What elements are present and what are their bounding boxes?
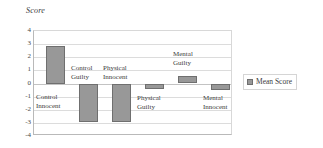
legend-label-mean-score: Mean Score [256,78,292,86]
bar-label-line: Innocent [36,102,61,111]
bar-label-mental-guilty: Mental Guilty [173,50,193,67]
gridline [34,123,231,124]
bar-label-line: Mental [173,50,193,59]
bar-label-line: Guilty [173,59,193,68]
chart-title: Score [26,6,45,15]
plot-area: Control Innocent Control Guilty Physical… [33,30,232,135]
bar-label-line: Innocent [103,73,128,82]
y-tick-label: 3 [9,40,31,47]
bar-label-line: Mental [203,94,228,103]
chart-legend: Mean Score [243,74,297,90]
legend-swatch-icon [247,79,253,85]
bar-label-line: Physical [137,94,161,103]
y-axis-tick-labels: 4 3 2 1 0 -1 -2 -3 -4 [5,30,31,135]
bar-control-innocent[interactable] [46,46,65,84]
bar-label-mental-innocent: Mental Innocent [203,94,228,111]
gridline-zero [34,84,231,85]
bar-chart: Score 4 3 2 1 0 -1 -2 -3 -4 Control Inno… [0,0,323,148]
bar-label-line: Innocent [203,103,228,112]
y-tick-label: -3 [9,118,31,125]
bar-label-line: Physical [103,64,128,73]
bar-label-physical-guilty: Physical Guilty [137,94,161,111]
bar-physical-innocent[interactable] [112,84,131,122]
y-tick-label: -4 [9,132,31,139]
bar-label-line: Guilty [71,73,92,82]
bar-label-physical-innocent: Physical Innocent [103,64,128,81]
y-tick-label: -1 [9,92,31,99]
y-tick-label: 0 [9,79,31,86]
gridline [34,110,231,111]
y-tick-label: -2 [9,105,31,112]
bar-label-control-guilty: Control Guilty [71,64,92,81]
bar-physical-guilty[interactable] [145,84,164,89]
gridline [34,97,231,98]
bar-label-line: Guilty [137,103,161,112]
bar-control-guilty[interactable] [79,84,98,122]
y-tick-label: 4 [9,27,31,34]
bar-label-line: Control [36,93,61,102]
bar-label-control-innocent: Control Innocent [36,93,61,110]
y-tick-label: 2 [9,53,31,60]
bar-label-line: Control [71,64,92,73]
y-tick-label: 1 [9,66,31,73]
bar-mental-innocent[interactable] [211,84,230,91]
bar-mental-guilty[interactable] [178,76,197,84]
